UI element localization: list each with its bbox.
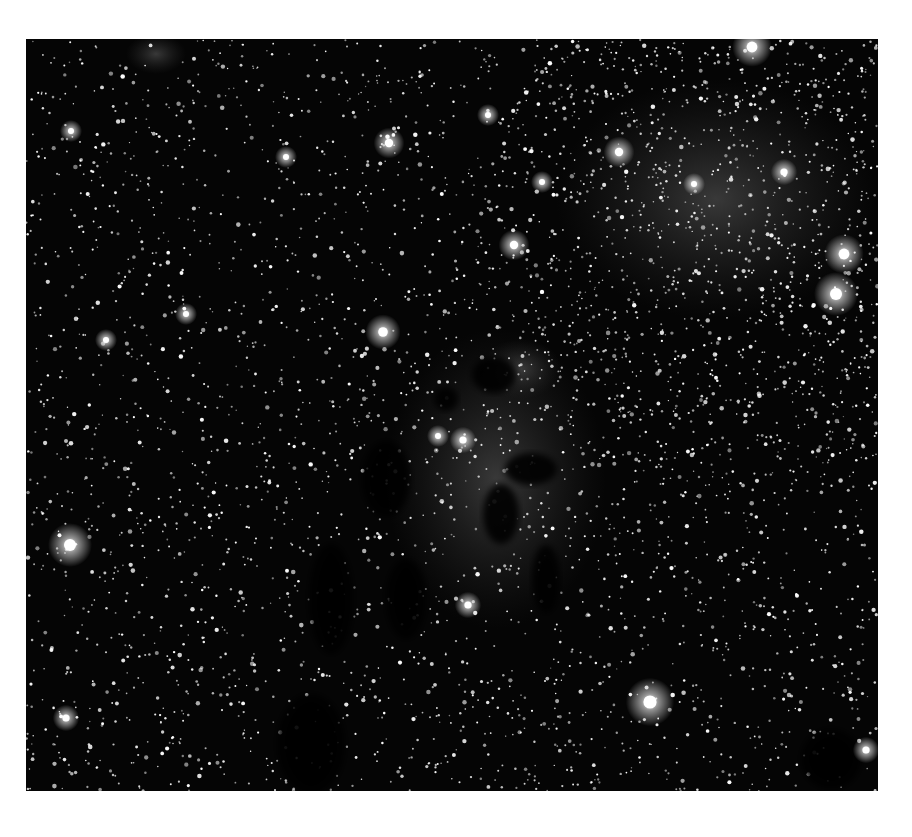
bright-star — [459, 436, 466, 443]
bright-star — [485, 112, 491, 118]
dust-pillar — [483, 484, 519, 544]
dust-pillar — [309, 544, 353, 654]
dust-pillar — [801, 729, 861, 789]
bright-star — [103, 337, 109, 343]
bright-star — [64, 539, 76, 551]
bright-star — [643, 695, 656, 708]
bright-star — [862, 746, 869, 753]
bright-star — [283, 154, 289, 160]
bright-star — [183, 311, 189, 317]
bright-star — [510, 241, 518, 249]
bright-star — [747, 42, 758, 53]
bright-star — [839, 249, 850, 260]
dust-pillar — [277, 694, 345, 791]
dust-pillar — [472, 357, 516, 393]
bright-star — [464, 601, 471, 608]
bright-star — [385, 139, 393, 147]
bright-star — [615, 148, 623, 156]
dust-pillar — [505, 453, 557, 485]
dust-pillar — [532, 545, 560, 613]
bright-star — [378, 327, 388, 337]
bright-star — [691, 181, 697, 187]
astronomical-photo — [26, 39, 878, 791]
bright-star — [68, 128, 74, 134]
page — [0, 0, 912, 837]
bright-star — [62, 714, 69, 721]
dust-pillar — [362, 441, 410, 517]
bright-star — [780, 168, 787, 175]
bright-star — [435, 433, 441, 439]
bright-star — [539, 179, 545, 185]
dust-pillar — [386, 559, 426, 639]
star-field-image — [26, 39, 878, 791]
dust-pillar — [434, 387, 458, 411]
bright-star — [830, 288, 842, 300]
